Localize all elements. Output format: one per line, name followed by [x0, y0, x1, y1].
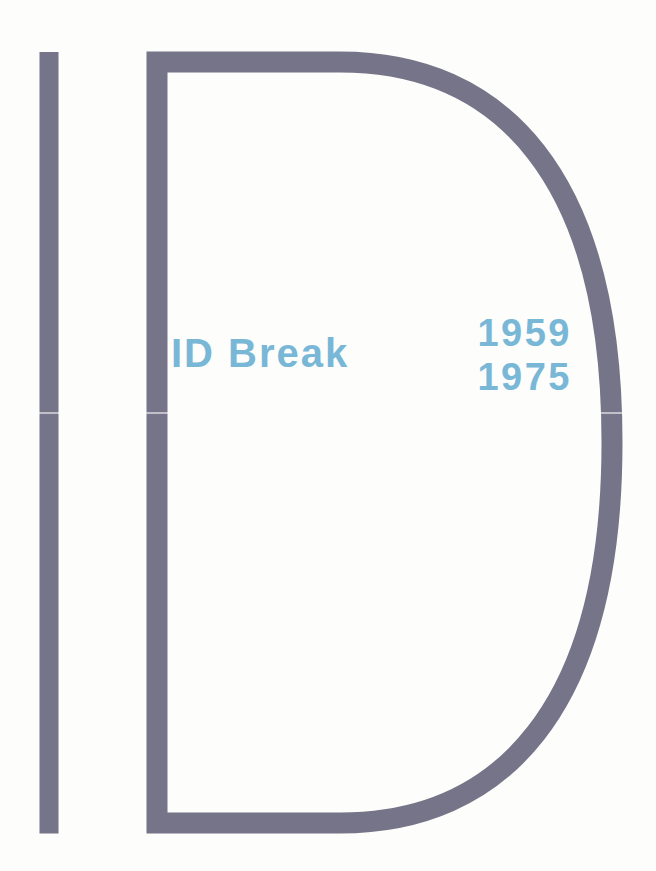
year-range: 1959 1975 — [477, 311, 572, 399]
year-start: 1959 — [477, 311, 572, 355]
id-logo-graphic — [0, 0, 656, 871]
year-end: 1975 — [477, 355, 572, 399]
letter-d-outline — [157, 62, 612, 823]
page-title: ID Break — [171, 333, 349, 373]
magazine-page: ID Break 1959 1975 — [0, 0, 656, 871]
letter-i-bar — [40, 52, 59, 834]
